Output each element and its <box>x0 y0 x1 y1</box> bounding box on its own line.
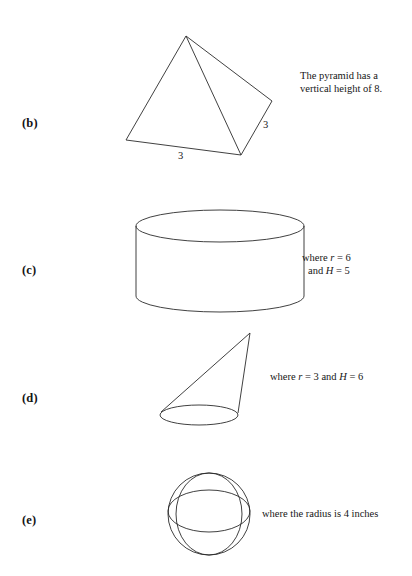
pyramid-edge-apex-front <box>186 36 241 155</box>
pyramid-note-line-1: The pyramid has a <box>300 70 382 83</box>
cone-note-r-eq: = <box>305 371 311 382</box>
pyramid-base-front-left-edge <box>126 140 241 155</box>
sphere-equator-ellipse <box>168 490 250 532</box>
worksheet-page: (b) 3 3 The pyramid has a vertical heigh… <box>0 0 412 576</box>
cone-note-h-val: 6 <box>358 371 363 382</box>
cone-note-h-var: H <box>339 371 347 382</box>
sphere-outline-circle <box>168 473 250 555</box>
pyramid-base-dimension: 3 <box>178 150 183 161</box>
cylinder-note-h-var: H <box>326 265 334 276</box>
cone-note-where: where <box>270 371 296 382</box>
cone-slant-right <box>238 333 250 413</box>
pyramid-edge-apex-left <box>126 36 186 140</box>
cone-note-and: and <box>321 371 336 382</box>
pyramid-note: The pyramid has a vertical height of 8. <box>300 70 382 95</box>
pyramid-figure <box>0 0 412 200</box>
pyramid-edge-dimension: 3 <box>263 119 268 130</box>
cone-slant-left <box>161 333 250 412</box>
cylinder-note-line-2: and H = 5 <box>302 265 351 278</box>
cylinder-note-line-1: where r = 6 <box>302 252 351 265</box>
sphere-note-line-1: where the radius is 4 inches <box>262 508 378 521</box>
cylinder-note: where r = 6 and H = 5 <box>302 252 351 277</box>
cylinder-note-where: where <box>302 252 328 263</box>
cylinder-note-h-eq: = <box>336 265 342 276</box>
cylinder-bottom-arc <box>136 296 304 312</box>
cone-base-ellipse <box>160 405 238 425</box>
cylinder-note-r-eq: = <box>337 252 343 263</box>
cone-note-line-1: where r = 3 and H = 6 <box>270 371 363 384</box>
cylinder-note-r-var: r <box>330 252 334 263</box>
cone-note-r-val: 3 <box>314 371 319 382</box>
cylinder-note-and: and <box>308 265 323 276</box>
sphere-note: where the radius is 4 inches <box>262 508 378 521</box>
cylinder-top-ellipse <box>136 210 304 242</box>
sphere-meridian-ellipse <box>176 473 242 555</box>
cylinder-note-r-val: 6 <box>346 252 351 263</box>
cylinder-note-h-val: 5 <box>345 265 350 276</box>
cone-note-r-var: r <box>298 371 302 382</box>
cone-note-h-eq: = <box>349 371 355 382</box>
pyramid-note-line-2: vertical height of 8. <box>300 83 382 96</box>
pyramid-edge-apex-right <box>186 36 272 101</box>
cone-note: where r = 3 and H = 6 <box>270 371 363 384</box>
